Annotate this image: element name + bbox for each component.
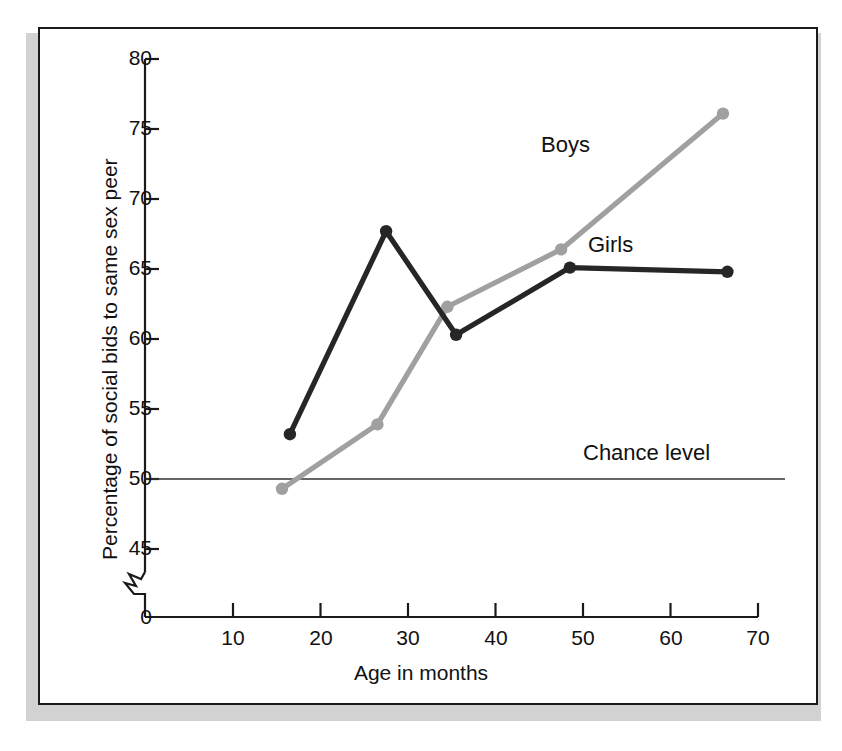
series-label-boys: Boys	[541, 132, 590, 158]
y-tick-label-0: 0	[106, 605, 152, 629]
figure-plate	[38, 27, 818, 705]
y-tick-label-75: 75	[106, 116, 152, 140]
x-tick-label-50: 50	[558, 626, 608, 650]
y-axis-title: Percentage of social bids to same sex pe…	[98, 158, 122, 560]
x-axis-title: Age in months	[0, 661, 842, 685]
x-tick-label-60: 60	[646, 626, 696, 650]
series-label-girls: Girls	[588, 232, 633, 258]
x-tick-label-20: 20	[296, 626, 346, 650]
figure-root: 80 75 70 65 60 55 50 45 0 10 20 30 40 50…	[0, 0, 842, 751]
chance-level-label: Chance level	[583, 440, 710, 466]
y-tick-label-80: 80	[106, 46, 152, 70]
x-tick-label-70: 70	[733, 626, 783, 650]
x-tick-label-30: 30	[383, 626, 433, 650]
x-tick-label-40: 40	[471, 626, 521, 650]
x-tick-label-10: 10	[208, 626, 258, 650]
